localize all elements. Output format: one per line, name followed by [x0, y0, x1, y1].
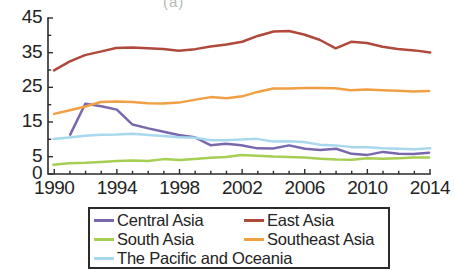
legend-color-swatch [94, 257, 114, 260]
y-axis-tick-label: 45 [8, 6, 42, 28]
x-axis-tick-label: 1998 [150, 177, 210, 199]
legend-label: East Asia [267, 211, 334, 230]
x-axis-tick-label: 2014 [400, 177, 455, 199]
legend-label: Central Asia [117, 211, 204, 230]
legend-color-swatch [244, 238, 264, 241]
legend-item[interactable]: South Asia [94, 230, 244, 249]
legend-label: Southeast Asia [267, 230, 374, 249]
legend-color-swatch [94, 238, 114, 241]
series-line [53, 134, 430, 149]
series-line [54, 88, 429, 114]
y-axis-tick-label: 15 [8, 110, 42, 132]
plot-area [0, 0, 434, 205]
x-axis-tick-label: 2006 [275, 177, 335, 199]
chart-legend: Central AsiaEast AsiaSouth AsiaSoutheast… [88, 207, 390, 269]
series-line [54, 31, 430, 70]
legend-color-swatch [94, 219, 114, 222]
x-axis-tick-label: 1990 [24, 177, 84, 199]
legend-item[interactable]: The Pacific and Oceania [94, 249, 244, 268]
legend-label: South Asia [117, 230, 194, 249]
x-axis-tick-label: 1994 [87, 177, 147, 199]
series-line [53, 155, 429, 165]
legend-item[interactable]: Central Asia [94, 211, 244, 230]
legend-label: The Pacific and Oceania [117, 249, 292, 268]
legend-color-swatch [244, 219, 264, 222]
legend-item[interactable]: Southeast Asia [244, 230, 394, 249]
y-axis-tick-label: 25 [8, 75, 42, 97]
legend-item[interactable]: East Asia [244, 211, 394, 230]
x-axis-tick-label: 2010 [337, 177, 397, 199]
y-axis-tick-label: 35 [8, 41, 42, 63]
x-axis-tick-label: 2002 [212, 177, 272, 199]
